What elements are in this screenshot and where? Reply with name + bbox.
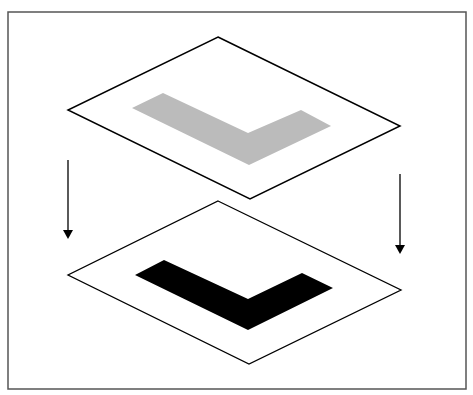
left-down-arrow-icon [63,160,73,239]
right-down-arrow-icon [395,174,405,254]
bottom-plane [68,201,401,364]
top-plane [68,37,400,199]
diagram-canvas [0,0,473,395]
